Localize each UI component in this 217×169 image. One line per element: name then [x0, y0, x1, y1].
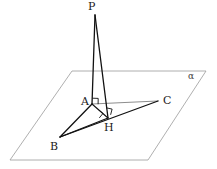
segment-AC: [92, 101, 158, 104]
vertex-label-P: P: [88, 1, 95, 12]
vertex-label-H: H: [104, 122, 114, 133]
segment-AB: [60, 104, 92, 137]
plane-label-alpha: α: [188, 72, 194, 81]
diagram-canvas: [0, 0, 217, 169]
vertex-label-B: B: [50, 141, 58, 152]
segment-PA: [92, 15, 95, 104]
vertex-label-A: A: [81, 96, 89, 107]
geometry-diagram: P A B C H α: [0, 0, 217, 169]
segment-BH: [60, 118, 108, 137]
segment-PH: [95, 15, 108, 118]
vertex-label-C: C: [163, 95, 171, 106]
